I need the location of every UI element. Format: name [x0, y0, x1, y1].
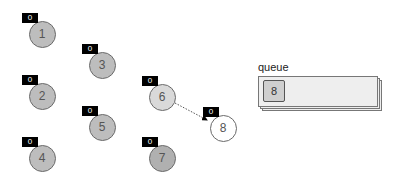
node-5: 5: [89, 114, 116, 141]
node-badge: 0: [82, 106, 98, 116]
node-2: 2: [29, 83, 56, 110]
node-6: 6: [149, 84, 176, 111]
queue-label: queue: [258, 61, 289, 73]
node-badge: 0: [22, 13, 38, 23]
node-badge: 0: [22, 137, 38, 147]
queue-item: 8: [263, 80, 285, 102]
node-1: 1: [29, 21, 56, 48]
node-8: 8: [210, 115, 237, 142]
queue-stack-front: 8: [258, 76, 378, 107]
node-badge: 0: [82, 44, 98, 54]
node-3: 3: [89, 52, 116, 79]
node-badge: 0: [22, 75, 38, 85]
node-badge: 0: [142, 76, 158, 86]
node-7: 7: [149, 145, 176, 172]
node-badge: 0: [203, 107, 219, 117]
node-badge: 0: [142, 137, 158, 147]
node-4: 4: [29, 145, 56, 172]
